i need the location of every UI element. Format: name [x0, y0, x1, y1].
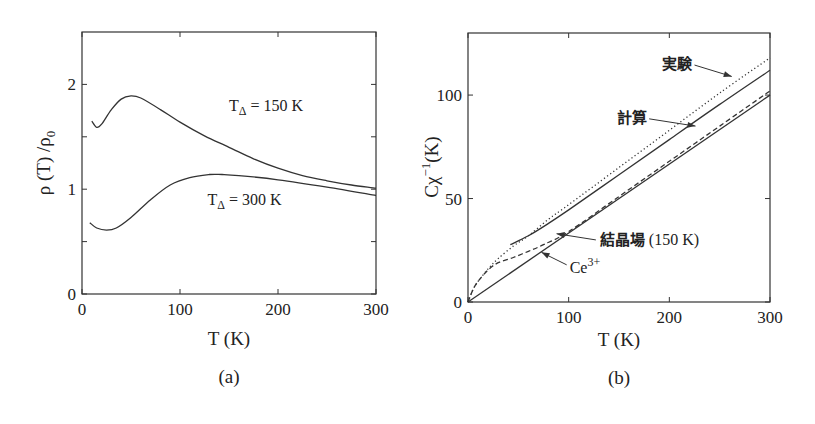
figure-svg: 0100200300012 TΔ = 150 KTΔ = 300 K T (K)… [0, 0, 815, 424]
curve-label: Ce3+ [570, 255, 601, 276]
figure: 0100200300012 TΔ = 150 KTΔ = 300 K T (K)… [0, 0, 815, 424]
panel-b-ticks: 0100200300050100 [437, 33, 783, 327]
panel-a-annotations: TΔ = 150 KTΔ = 300 K [207, 97, 303, 212]
y-tick-label: 0 [454, 293, 463, 312]
curve-label: TΔ = 300 K [207, 191, 282, 212]
curve-label: 計算 [617, 109, 647, 127]
panel-b-y-axis-label: Cχ−1(K) [418, 136, 443, 197]
x-tick-label: 0 [78, 300, 87, 319]
x-tick-label: 300 [363, 300, 389, 319]
x-tick-label: 100 [167, 300, 193, 319]
arrowhead-icon [723, 71, 732, 77]
curve-label: 結晶場 (150 K) [600, 231, 699, 249]
panel-b-x-axis-label: T (K) [598, 329, 640, 351]
panel-a-caption: (a) [218, 366, 239, 388]
panel-b-caption: (b) [608, 367, 630, 389]
panel-a-ticks: 0100200300012 [68, 32, 389, 319]
arrowhead-icon [541, 252, 549, 258]
curve-label: 実験 [662, 55, 693, 73]
x-tick-label: 200 [265, 300, 291, 319]
y-tick-label: 100 [437, 86, 463, 105]
x-tick-label: 100 [556, 308, 582, 327]
x-tick-label: 300 [757, 308, 783, 327]
curve-label: TΔ = 150 K [229, 97, 304, 118]
y-tick-label: 1 [68, 180, 77, 199]
panel-a-curves [90, 96, 376, 230]
panel-a-x-axis-label: T (K) [208, 328, 250, 350]
panel-b-curves [468, 58, 770, 302]
panel-a-axes-frame [82, 32, 376, 294]
x-tick-label: 0 [464, 308, 473, 327]
panel-b-annotations: 実験計算結晶場 (150 K)Ce3+ [541, 55, 731, 276]
panel-b-susceptibility-plot: 0100200300050100 実験計算結晶場 (150 K)Ce3+ T (… [418, 33, 783, 389]
y-tick-label: 0 [68, 285, 77, 304]
panel-a-resistivity-plot: 0100200300012 TΔ = 150 KTΔ = 300 K T (K)… [33, 32, 389, 388]
series-1-line [468, 58, 770, 302]
y-tick-label: 50 [445, 190, 462, 209]
y-tick-label: 2 [68, 75, 77, 94]
x-tick-label: 200 [657, 308, 683, 327]
arrowhead-icon [557, 232, 565, 238]
panel-a-y-axis-label: ρ (T) /ρ0 [33, 131, 58, 196]
